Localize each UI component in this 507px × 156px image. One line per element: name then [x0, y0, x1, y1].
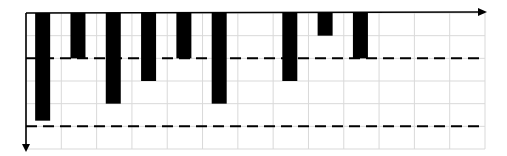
y-axis-arrow-icon: [22, 144, 30, 152]
reference-lines: [26, 58, 485, 126]
bar: [141, 13, 156, 81]
bar: [353, 13, 368, 58]
bars: [35, 13, 368, 121]
bar: [282, 13, 297, 81]
bar: [70, 13, 85, 58]
x-axis-arrow-icon: [478, 8, 487, 16]
bar: [318, 13, 333, 36]
grid: [26, 13, 485, 149]
axes: [22, 8, 487, 152]
x-axis: [26, 12, 480, 13]
bar: [35, 13, 50, 121]
bar: [176, 13, 191, 58]
bar-chart: [0, 0, 507, 156]
